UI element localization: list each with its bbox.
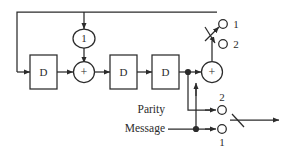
message-label: Message	[125, 122, 165, 135]
delay-element-1-label: D	[40, 66, 48, 78]
input-switch-terminal-2-label: 2	[219, 91, 225, 103]
adder-left-label: +	[81, 65, 88, 79]
output-switch-terminal-1[interactable]	[219, 20, 228, 29]
junction-dot-message	[193, 126, 199, 132]
output-switch-terminal-2-label: 2	[233, 38, 239, 50]
figure-canvas: D D D 1 + + 1 2 2 1 Parity Message	[0, 0, 288, 154]
input-switch-terminal-2[interactable]	[218, 106, 227, 115]
top-switch-blade-down	[205, 27, 215, 43]
input-switch-terminal-1-label: 1	[219, 136, 225, 148]
output-switch-terminal-2[interactable]	[219, 40, 228, 49]
delay-element-2-label: D	[120, 66, 128, 78]
junction-dot-parity	[185, 69, 191, 75]
block-diagram-svg: D D D 1 + + 1 2 2 1 Parity Message	[0, 0, 288, 154]
parity-label: Parity	[138, 103, 166, 116]
output-switch-terminal-1-label: 1	[233, 18, 239, 30]
delay-element-3-label: D	[162, 66, 170, 78]
adder-right-label: +	[209, 65, 216, 79]
input-switch-terminal-1[interactable]	[218, 125, 227, 134]
gain-block-label: 1	[81, 32, 87, 44]
